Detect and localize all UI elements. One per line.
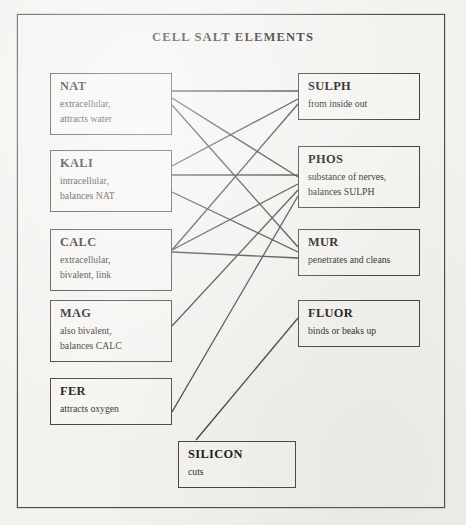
- node-calc-title: CALC: [60, 236, 163, 249]
- node-mag-description-line-2: balances CALC: [60, 339, 163, 354]
- node-fer-title: FER: [60, 385, 163, 398]
- node-kali[interactable]: KALIintracellular,balances NAT: [50, 150, 172, 212]
- node-sulph-title: SULPH: [308, 80, 411, 93]
- node-mur[interactable]: MURpenetrates and cleans: [298, 229, 420, 276]
- diagram-page: CELL SALT ELEMENTS NATextracellular,attr…: [0, 0, 466, 525]
- node-fer[interactable]: FERattracts oxygen: [50, 378, 172, 425]
- node-nat-description-line-2: attracts water: [60, 112, 163, 127]
- node-phos-title: PHOS: [308, 153, 411, 166]
- node-calc-description-line-2: bivalent, link: [60, 268, 163, 283]
- node-silicon-description-line-1: cuts: [188, 465, 287, 480]
- node-phos[interactable]: PHOSsubstance of nerves,balances SULPH: [298, 146, 420, 208]
- node-silicon[interactable]: SILICONcuts: [178, 441, 296, 488]
- node-fluor-description: binds or beaks up: [308, 324, 411, 339]
- node-nat-title: NAT: [60, 80, 163, 93]
- node-fer-description: attracts oxygen: [60, 402, 163, 417]
- node-mag-description: also bivalent,balances CALC: [60, 324, 163, 353]
- node-phos-description: substance of nerves,balances SULPH: [308, 170, 411, 199]
- page-title: CELL SALT ELEMENTS: [0, 30, 466, 45]
- node-nat[interactable]: NATextracellular,attracts water: [50, 73, 172, 135]
- node-kali-description: intracellular,balances NAT: [60, 174, 163, 203]
- node-mur-description: penetrates and cleans: [308, 253, 411, 268]
- node-nat-description: extracellular,attracts water: [60, 97, 163, 126]
- node-sulph-description: from inside out: [308, 97, 411, 112]
- node-phos-description-line-1: substance of nerves,: [308, 170, 411, 185]
- node-fluor[interactable]: FLUORbinds or beaks up: [298, 300, 420, 347]
- node-silicon-description: cuts: [188, 465, 287, 480]
- node-fluor-title: FLUOR: [308, 307, 411, 320]
- node-sulph[interactable]: SULPHfrom inside out: [298, 73, 420, 120]
- node-kali-description-line-1: intracellular,: [60, 174, 163, 189]
- node-silicon-title: SILICON: [188, 448, 287, 461]
- node-phos-description-line-2: balances SULPH: [308, 185, 411, 200]
- node-kali-description-line-2: balances NAT: [60, 189, 163, 204]
- node-mag-description-line-1: also bivalent,: [60, 324, 163, 339]
- node-mur-description-line-1: penetrates and cleans: [308, 253, 411, 268]
- node-kali-title: KALI: [60, 157, 163, 170]
- node-calc-description: extracellular,bivalent, link: [60, 253, 163, 282]
- node-mur-title: MUR: [308, 236, 411, 249]
- node-mag-title: MAG: [60, 307, 163, 320]
- node-calc-description-line-1: extracellular,: [60, 253, 163, 268]
- node-nat-description-line-1: extracellular,: [60, 97, 163, 112]
- node-mag[interactable]: MAGalso bivalent,balances CALC: [50, 300, 172, 362]
- node-fer-description-line-1: attracts oxygen: [60, 402, 163, 417]
- node-calc[interactable]: CALCextracellular,bivalent, link: [50, 229, 172, 291]
- node-fluor-description-line-1: binds or beaks up: [308, 324, 411, 339]
- node-sulph-description-line-1: from inside out: [308, 97, 411, 112]
